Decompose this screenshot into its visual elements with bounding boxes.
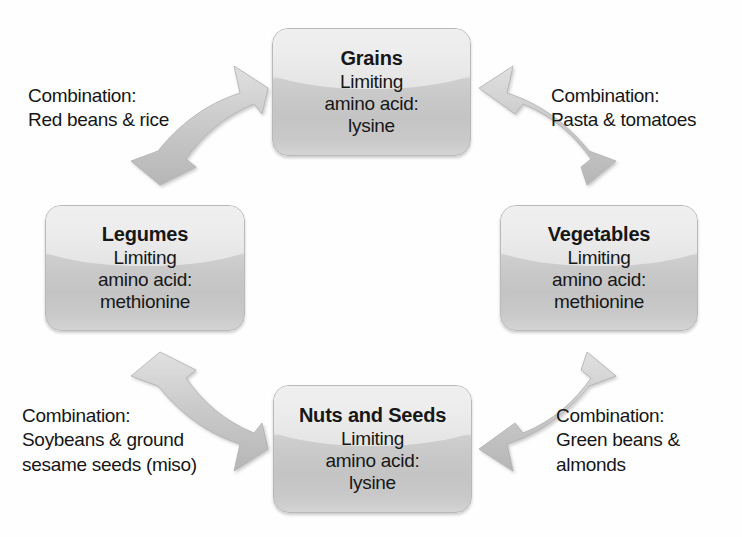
caption-top-right: Combination: Pasta & tomatoes [551, 84, 696, 133]
node-vegetables-text: Vegetables Limiting amino acid: methioni… [542, 223, 657, 313]
node-legumes: Legumes Limiting amino acid: methionine [45, 205, 245, 331]
node-legumes-line1: Limiting [98, 247, 192, 269]
caption-top-right-line2: Pasta & tomatoes [551, 108, 696, 132]
caption-bottom-left-line3: sesame seeds (miso) [22, 453, 197, 477]
protein-complementation-diagram: Grains Limiting amino acid: lysine Legum… [0, 0, 742, 537]
caption-bottom-right-line1: Combination: [556, 404, 680, 428]
node-grains-line3: lysine [325, 115, 419, 137]
caption-top-left: Combination: Red beans & rice [28, 84, 169, 133]
node-legumes-title: Legumes [98, 223, 192, 246]
node-vegetables-title: Vegetables [548, 223, 651, 246]
caption-top-right-line1: Combination: [551, 84, 696, 108]
caption-bottom-right-line3: almonds [556, 453, 680, 477]
caption-bottom-left-line2: Soybeans & ground [22, 428, 197, 452]
node-nuts-and-seeds-line3: lysine [299, 472, 446, 494]
node-nuts-and-seeds-line1: Limiting [299, 428, 446, 450]
node-legumes-line2: amino acid: [98, 269, 192, 291]
node-nuts-and-seeds-title: Nuts and Seeds [299, 404, 446, 427]
caption-bottom-right: Combination: Green beans & almonds [556, 404, 680, 477]
node-grains-text: Grains Limiting amino acid: lysine [319, 47, 425, 137]
caption-bottom-left: Combination: Soybeans & ground sesame se… [22, 404, 197, 477]
node-legumes-text: Legumes Limiting amino acid: methionine [92, 223, 198, 313]
caption-bottom-right-line2: Green beans & [556, 428, 680, 452]
node-grains-line1: Limiting [325, 71, 419, 93]
node-vegetables-line3: methionine [548, 291, 651, 313]
node-grains-title: Grains [325, 47, 419, 70]
caption-top-left-line1: Combination: [28, 84, 169, 108]
node-nuts-and-seeds: Nuts and Seeds Limiting amino acid: lysi… [273, 385, 472, 513]
node-legumes-line3: methionine [98, 291, 192, 313]
node-grains: Grains Limiting amino acid: lysine [272, 28, 471, 156]
node-vegetables: Vegetables Limiting amino acid: methioni… [500, 205, 698, 331]
caption-top-left-line2: Red beans & rice [28, 108, 169, 132]
node-vegetables-line1: Limiting [548, 247, 651, 269]
node-nuts-and-seeds-text: Nuts and Seeds Limiting amino acid: lysi… [293, 404, 452, 494]
node-vegetables-line2: amino acid: [548, 269, 651, 291]
node-nuts-and-seeds-line2: amino acid: [299, 450, 446, 472]
node-grains-line2: amino acid: [325, 93, 419, 115]
caption-bottom-left-line1: Combination: [22, 404, 197, 428]
